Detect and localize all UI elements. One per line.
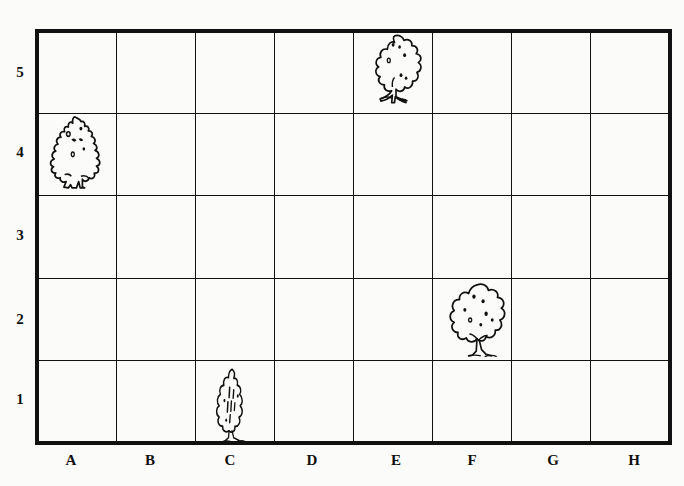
grid-lines <box>0 0 684 486</box>
deciduous-tree-icon <box>360 33 432 107</box>
column-label-g: G <box>540 453 566 468</box>
columnar-shrub-icon <box>203 367 261 443</box>
column-label-b: B <box>137 453 163 468</box>
column-label-f: F <box>459 453 485 468</box>
row-label-5: 5 <box>9 65 31 80</box>
broadleaf-tree-icon <box>439 281 515 359</box>
map-item-e5 <box>360 33 432 107</box>
grid-map-figure: ABCDEFGH 54321 <box>0 0 684 486</box>
column-label-h: H <box>621 453 647 468</box>
map-item-a4 <box>38 113 112 191</box>
row-label-3: 3 <box>9 228 31 243</box>
row-label-1: 1 <box>9 392 31 407</box>
column-label-d: D <box>299 453 325 468</box>
row-label-4: 4 <box>9 145 31 160</box>
column-label-c: C <box>217 453 243 468</box>
row-label-2: 2 <box>9 312 31 327</box>
map-item-c1 <box>203 367 261 443</box>
map-item-f2 <box>439 281 515 359</box>
conifer-tree-icon <box>38 113 112 191</box>
column-label-e: E <box>383 453 409 468</box>
column-label-a: A <box>58 453 84 468</box>
